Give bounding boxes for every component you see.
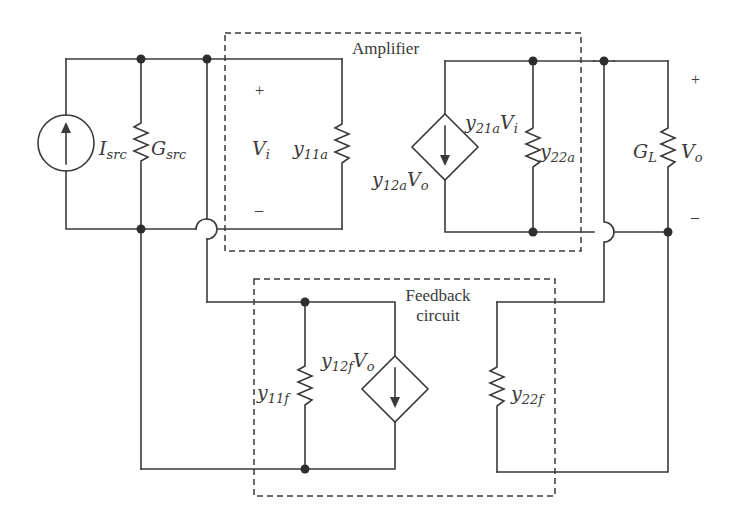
y11a-label: y11a [293, 139, 328, 161]
source-network [66, 59, 342, 302]
amplifier-title-text: Amplifier [352, 39, 419, 58]
feedback-network [141, 302, 504, 472]
output-voltage-plus: + [691, 71, 700, 89]
amplifier-block-boundary [225, 33, 581, 251]
current-source-label: Isrc [99, 139, 127, 161]
y22f-label: y22f [511, 384, 543, 406]
current-source-icon [38, 115, 94, 171]
y22a-label: y22a [540, 142, 575, 164]
amplifier-title: Amplifier [352, 39, 419, 59]
y11a-resistor-icon [335, 59, 349, 229]
source-conductance-label: Gsrc [151, 139, 186, 161]
y12f-vo-label: y12fVo [321, 351, 375, 373]
junction-nodes [137, 55, 673, 474]
input-voltage-minus: – [255, 201, 263, 219]
feedback-amplifier-circuit-diagram [0, 0, 735, 524]
input-voltage-label: Vi [252, 139, 270, 161]
input-voltage-plus: + [255, 82, 264, 100]
y21a-vi-label: y21aVi [465, 113, 518, 135]
y12a-vo-label: y12aVo [372, 170, 429, 192]
feedback-title-line2: circuit [393, 306, 483, 326]
amplifier-output-network [445, 61, 668, 302]
source-conductance-resistor-icon [134, 59, 148, 469]
feedback-title: Feedback circuit [393, 286, 483, 327]
y22a-resistor-icon [526, 61, 540, 232]
load-conductance-resistor-icon [497, 61, 675, 472]
output-voltage-minus: – [691, 208, 699, 226]
load-conductance-label: GL [633, 142, 657, 164]
output-voltage-label: Vo [681, 142, 703, 164]
y11f-label: y11f [257, 383, 289, 405]
feedback-title-line1: Feedback [393, 286, 483, 306]
